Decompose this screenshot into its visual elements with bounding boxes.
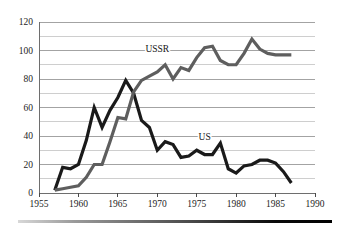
y-tick-label-20: 20 xyxy=(24,160,34,170)
x-tick-label-1955: 1955 xyxy=(30,199,49,209)
series-label-us: US xyxy=(199,132,211,142)
series-group xyxy=(55,39,292,190)
chart-canvas: 0204060801001201955196019651970197519801… xyxy=(0,0,346,229)
x-tick-label-1960: 1960 xyxy=(69,199,88,209)
gridlines xyxy=(39,22,315,193)
series-label-ussr: USSR xyxy=(145,44,169,54)
x-tick-label-1990: 1990 xyxy=(306,199,325,209)
x-tick-label-1985: 1985 xyxy=(266,199,285,209)
y-tick-label-0: 0 xyxy=(28,188,33,198)
x-axis-ticks: 19551960196519701975198019851990 xyxy=(30,193,325,209)
x-tick-label-1970: 1970 xyxy=(148,199,167,209)
y-tick-label-60: 60 xyxy=(24,103,34,113)
line-chart: 0204060801001201955196019651970197519801… xyxy=(0,0,346,229)
y-tick-label-100: 100 xyxy=(19,46,34,56)
decorative-gradient-rule xyxy=(18,220,332,223)
x-tick-label-1980: 1980 xyxy=(227,199,246,209)
x-tick-label-1975: 1975 xyxy=(187,199,206,209)
y-tick-label-80: 80 xyxy=(24,74,34,84)
y-tick-label-120: 120 xyxy=(19,17,34,27)
y-axis-ticks: 020406080100120 xyxy=(19,17,34,198)
series-line-ussr xyxy=(55,39,292,190)
x-tick-label-1965: 1965 xyxy=(108,199,127,209)
y-tick-label-40: 40 xyxy=(24,131,34,141)
